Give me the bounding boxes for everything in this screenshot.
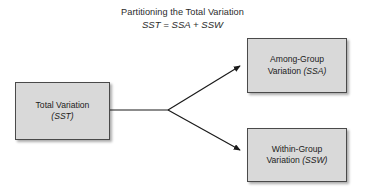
- node-within-group-line1: Within-Group: [272, 144, 323, 156]
- arrow-to-within-group: [168, 110, 240, 150]
- diagram-title: Partitioning the Total Variation: [0, 6, 365, 18]
- arrow-to-among-group: [168, 66, 240, 110]
- node-within-group-line2: Variation (SSW): [267, 155, 328, 167]
- diagram-title-block: Partitioning the Total Variation SST = S…: [0, 6, 365, 31]
- node-within-group-line2-plain: Variation: [267, 155, 303, 165]
- node-among-group-line1: Among-Group: [270, 54, 324, 66]
- node-total-variation-line2: (SST): [51, 111, 73, 123]
- node-within-group-line2-italic: (SSW): [302, 155, 327, 165]
- node-within-group-variation: Within-Group Variation (SSW): [247, 128, 347, 182]
- node-among-group-line2: Variation (SSA): [268, 66, 327, 78]
- diagram-formula: SST = SSA + SSW: [0, 19, 365, 31]
- diagram-canvas: Partitioning the Total Variation SST = S…: [0, 0, 365, 187]
- node-total-variation: Total Variation (SST): [15, 82, 110, 140]
- node-total-variation-line1: Total Variation: [36, 100, 90, 112]
- node-among-group-line2-italic: (SSA): [303, 66, 326, 76]
- node-among-group-variation: Among-Group Variation (SSA): [247, 38, 347, 93]
- node-among-group-line2-plain: Variation: [268, 66, 304, 76]
